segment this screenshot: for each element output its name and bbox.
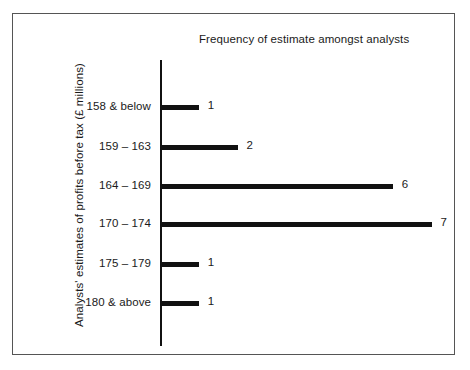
bar-row: 175 – 179 1 xyxy=(0,254,470,274)
bar-row: 164 – 169 6 xyxy=(0,176,470,196)
bar-value-label: 1 xyxy=(208,99,215,111)
category-label: 158 & below xyxy=(87,100,151,112)
bar-value-label: 7 xyxy=(441,216,448,228)
bar-value-label: 1 xyxy=(208,295,215,307)
category-label: 170 – 174 xyxy=(99,217,151,229)
category-label: 175 – 179 xyxy=(99,257,151,269)
bar-value-label: 1 xyxy=(208,256,215,268)
bar xyxy=(160,301,199,306)
bar xyxy=(160,105,199,110)
bar-row: 170 – 174 7 xyxy=(0,214,470,234)
bar-row: 180 & above 1 xyxy=(0,293,470,313)
bar xyxy=(160,145,238,150)
bar-row: 158 & below 1 xyxy=(0,97,470,117)
plot-area: 158 & below 1 159 – 163 2 164 – 169 6 17… xyxy=(0,0,470,370)
bar-value-label: 2 xyxy=(247,139,254,151)
category-label: 164 – 169 xyxy=(99,179,151,191)
category-label: 180 & above xyxy=(85,296,151,308)
category-label: 159 – 163 xyxy=(99,140,151,152)
bar xyxy=(160,222,432,227)
bar xyxy=(160,262,199,267)
chart-figure: Frequency of estimate amongst analysts A… xyxy=(0,0,470,370)
bar-row: 159 – 163 2 xyxy=(0,137,470,157)
bar xyxy=(160,184,393,189)
bar-value-label: 6 xyxy=(402,178,409,190)
